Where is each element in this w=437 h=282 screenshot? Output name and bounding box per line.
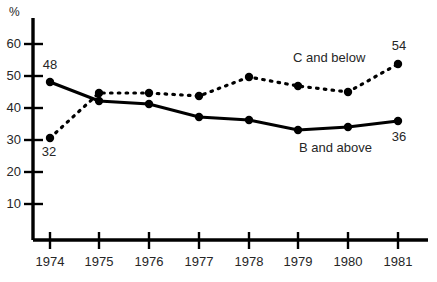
line-chart: % 60 50 40 30 20 10 1974 1975 1976 1977 … — [0, 0, 437, 282]
x-tick-label-1977: 1977 — [176, 254, 222, 269]
x-tick-label-1976: 1976 — [126, 254, 172, 269]
y-axis-unit-label: % — [9, 5, 20, 19]
y-tick-label-50: 50 — [0, 68, 21, 83]
y-tick-label-60: 60 — [0, 36, 21, 51]
x-tick-label-1980: 1980 — [325, 254, 371, 269]
x-tick-label-1979: 1979 — [275, 254, 321, 269]
y-tick-label-40: 40 — [0, 100, 21, 115]
x-tick-label-1974: 1974 — [27, 254, 73, 269]
x-tick-label-1981: 1981 — [375, 254, 421, 269]
y-tick-label-20: 20 — [0, 164, 21, 179]
x-tick-label-1975: 1975 — [76, 254, 122, 269]
data-label-32: 32 — [34, 144, 64, 159]
data-label-36: 36 — [384, 129, 414, 144]
series-annotation-b-and-above: B and above — [299, 140, 372, 155]
data-label-54: 54 — [384, 38, 414, 53]
y-tick-label-10: 10 — [0, 196, 21, 211]
series-annotation-c-and-below: C and below — [293, 50, 365, 65]
y-tick-label-30: 30 — [0, 132, 21, 147]
x-tick-label-1978: 1978 — [226, 254, 272, 269]
data-label-48: 48 — [35, 57, 65, 72]
